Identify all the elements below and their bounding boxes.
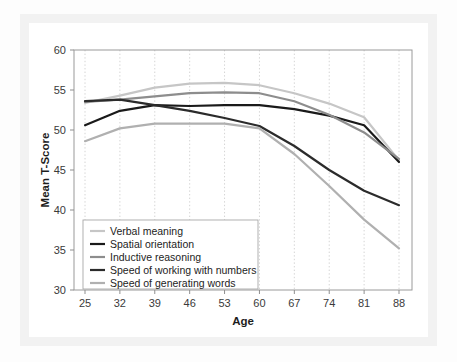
x-tick-label-81: 81 [358,297,370,309]
y-tick-label-50: 50 [54,124,66,136]
y-tick-label-35: 35 [54,244,66,256]
x-tick-label-74: 74 [323,297,335,309]
x-tick-label-46: 46 [184,297,196,309]
x-tick-label-39: 39 [149,297,161,309]
legend-label-0: Verbal meaning [110,225,183,237]
y-tick-label-40: 40 [54,204,66,216]
x-tick-label-25: 25 [79,297,91,309]
x-tick-label-60: 60 [253,297,265,309]
x-axis-tick-labels: 25323946536067748188 [79,297,405,309]
y-axis-title: Mean T-Score [39,133,51,208]
legend-label-4: Speed of generating words [110,277,236,289]
line-chart: 30354045505560 25323946536067748188 Mean… [0,0,457,362]
x-tick-label-32: 32 [114,297,126,309]
series-line-speed-of-working-with-numbers [85,100,399,206]
x-tick-label-53: 53 [218,297,230,309]
legend-label-2: Inductive reasoning [110,251,201,263]
legend-label-3: Speed of working with numbers [110,264,257,276]
chart-legend: Verbal meaningSpatial orientationInducti… [83,220,258,289]
y-tick-label-55: 55 [54,84,66,96]
y-axis-tick-labels: 30354045505560 [54,44,66,296]
series-line-spatial-orientation [85,105,399,162]
y-tick-label-45: 45 [54,164,66,176]
x-axis-title: Age [232,315,254,327]
y-tick-label-30: 30 [54,284,66,296]
y-tick-label-60: 60 [54,44,66,56]
chart-page: 30354045505560 25323946536067748188 Mean… [0,0,457,362]
x-tick-label-88: 88 [393,297,405,309]
x-tick-label-67: 67 [288,297,300,309]
legend-label-1: Spatial orientation [110,238,194,250]
